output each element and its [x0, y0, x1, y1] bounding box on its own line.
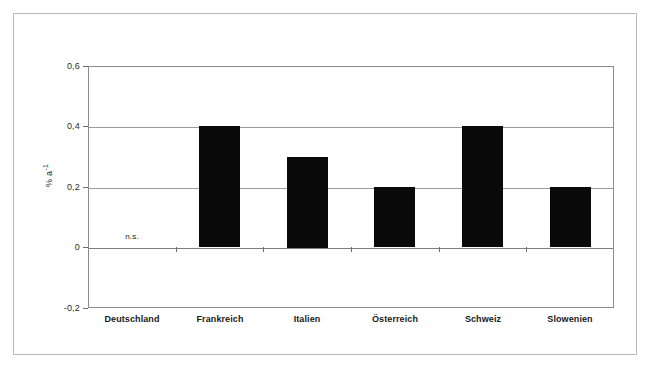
x-tick-mark [526, 247, 527, 252]
y-tick-mark [83, 66, 88, 67]
x-tick-label: Österreich [372, 314, 418, 324]
y-tick-label: -0,2 [20, 303, 80, 313]
chart-figure: % a-1 0,60,40,20-0,2DeutschlandFrankreic… [0, 0, 651, 392]
bar [550, 187, 591, 247]
y-tick-mark [83, 308, 88, 309]
x-tick-label: Slowenien [547, 314, 592, 324]
y-tick-label: 0,2 [20, 182, 80, 192]
y-tick-mark [83, 187, 88, 188]
x-tick-label: Deutschland [104, 314, 159, 324]
bar [287, 157, 328, 248]
gridline-y [89, 127, 613, 128]
x-tick-mark [263, 247, 264, 252]
x-tick-mark [351, 247, 352, 252]
bar [462, 126, 503, 247]
bar [199, 126, 240, 247]
bar-annotation-ns: n.s. [125, 232, 139, 241]
x-tick-label: Italien [294, 314, 321, 324]
y-tick-label: 0,6 [20, 61, 80, 71]
gridline-y [89, 188, 613, 189]
x-tick-label: Schweiz [465, 314, 501, 324]
x-tick-label: Frankreich [196, 314, 243, 324]
y-tick-mark [83, 126, 88, 127]
y-axis-title-exponent: -1 [42, 164, 49, 171]
bar [374, 187, 415, 247]
x-tick-mark [176, 247, 177, 252]
y-tick-mark [83, 247, 88, 248]
y-tick-label: 0 [20, 242, 80, 252]
plot-inner-canvas [89, 67, 613, 307]
x-tick-mark [439, 247, 440, 252]
plot-area [88, 66, 614, 308]
y-tick-label: 0,4 [20, 121, 80, 131]
